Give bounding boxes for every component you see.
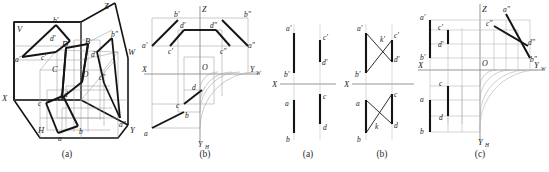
label-b-dprime: b" — [244, 10, 252, 19]
label-b: b — [185, 111, 189, 120]
panel-a-small-svg: a' b' c' d' a b c d X — [270, 0, 342, 150]
label-Z: Z — [202, 5, 207, 14]
panel-b-small-svg: a' b' c' d' k' a b c d k X — [344, 0, 420, 150]
heavy-line-segments — [294, 33, 320, 133]
label-c-prime: c' — [438, 23, 443, 32]
label-b-dprime: b" — [111, 30, 119, 39]
side-view-segments — [494, 14, 530, 58]
label-b-prime: b' — [420, 53, 426, 62]
label-d: d — [192, 83, 196, 92]
label-b: b — [420, 127, 424, 136]
label-d: d — [64, 90, 68, 99]
label-a-prime: a' — [357, 24, 363, 33]
label-c-dprime: c" — [486, 19, 493, 28]
label-c-prime: c' — [41, 53, 46, 62]
label-X: X — [141, 65, 148, 74]
label-d-prime: d' — [180, 21, 186, 30]
label-d-prime: d' — [322, 58, 328, 67]
caption-panel-3: (a) — [288, 149, 328, 159]
label-a-prime: a' — [420, 13, 426, 22]
label-b: b — [286, 135, 290, 144]
label-b-prime: b' — [284, 70, 290, 79]
label-a-dprime: a" — [119, 120, 127, 129]
label-W: W — [128, 47, 136, 57]
label-a: a — [420, 95, 424, 104]
label-a: a — [356, 99, 360, 108]
label-Yh-sub: H — [484, 142, 490, 148]
label-X: X — [271, 79, 278, 89]
label-Yh: Y — [478, 137, 484, 147]
label-c: c — [176, 101, 180, 110]
label-c-prime: c' — [394, 31, 399, 40]
label-a-prime: a' — [142, 41, 148, 50]
label-c: c — [323, 92, 327, 101]
label-a-dprime: a" — [503, 5, 511, 14]
panel-pictorial: Z V X Y W H O a' b' c' d' a b c d a" b" … — [0, 0, 142, 150]
label-H: H — [37, 125, 45, 135]
panel-c-small: Z X Y W Y H O a' b' c' d' a b c d a" b" … — [418, 0, 549, 150]
label-b-prime: b' — [53, 16, 59, 25]
label-a: a — [144, 129, 148, 138]
axes — [418, 4, 542, 140]
label-d-dprime: d" — [528, 38, 536, 47]
label-d-prime: d' — [438, 40, 444, 49]
label-k: k — [375, 122, 379, 131]
cross-lower-2 — [366, 94, 392, 133]
label-a: a — [58, 134, 62, 143]
label-c: c — [394, 90, 398, 99]
label-Z: Z — [482, 4, 487, 14]
top-view-segments — [430, 86, 448, 132]
label-O: O — [482, 59, 488, 68]
label-k-prime: k' — [380, 35, 385, 44]
panel-pictorial-svg: Z V X Y W H O a' b' c' d' a b c d a" b" … — [0, 0, 142, 150]
label-c-dprime: c" — [99, 73, 106, 82]
label-b-dprime: b" — [530, 55, 538, 64]
label-d-dprime: d" — [210, 21, 218, 30]
label-d: d — [439, 113, 443, 122]
label-c: c — [439, 79, 443, 88]
label-Yw-sub: W — [256, 70, 261, 76]
vertical-guides — [366, 24, 392, 140]
caption-panel-2: (b) — [185, 149, 225, 159]
panel-c-small-svg: Z X Y W Y H O a' b' c' d' a b c d a" b" … — [418, 0, 549, 150]
caption-panel-4: (b) — [362, 149, 402, 159]
label-c-prime: c' — [323, 33, 328, 42]
label-X: X — [344, 79, 350, 89]
label-point-B: B — [85, 36, 90, 46]
label-Z: Z — [104, 1, 109, 11]
transfer-arcs — [480, 70, 538, 132]
cross-upper-1 — [366, 33, 392, 62]
label-c-dprime: c" — [220, 47, 227, 56]
figure-plate: Z V X Y W H O a' b' c' d' a b c d a" b" … — [0, 0, 549, 172]
label-b: b — [357, 135, 361, 144]
label-a-dprime: a" — [248, 41, 256, 50]
label-d-dprime: d" — [91, 50, 99, 59]
panel-unfolded: Z X Y W Y H O a' b' c' d' a b c d a" b" … — [140, 0, 265, 150]
label-b-prime: b' — [174, 10, 180, 19]
label-a-prime: a' — [286, 24, 292, 33]
label-X: X — [1, 93, 8, 103]
transfer-arcs — [200, 72, 256, 128]
label-Y: Y — [130, 125, 136, 135]
panel-a-small: a' b' c' d' a b c d X — [270, 0, 342, 150]
caption-panel-5: (c) — [460, 149, 500, 159]
label-a: a — [285, 99, 289, 108]
label-b: b — [79, 127, 83, 136]
label-c-prime: c' — [168, 47, 173, 56]
segment-c-dprime-d-dprime — [494, 26, 528, 46]
panel-unfolded-svg: Z X Y W Y H O a' b' c' d' a b c d a" b" … — [140, 0, 265, 150]
vertical-guides — [294, 24, 320, 140]
label-Yh: Y — [198, 140, 204, 149]
label-d-prime: d' — [394, 55, 400, 64]
label-Yw-sub: W — [541, 66, 546, 72]
label-O: O — [202, 63, 208, 72]
caption-panel-1: (a) — [47, 149, 87, 159]
label-d: d — [323, 123, 327, 132]
label-d: d — [394, 121, 398, 130]
cross-lower-1 — [366, 100, 392, 124]
label-O: O — [83, 70, 89, 79]
label-point-C: C — [52, 64, 58, 74]
cross-upper-2 — [366, 40, 392, 73]
panel-c-small-labels: Z X Y W Y H O a' b' c' d' a b c d a" b" … — [418, 4, 546, 148]
label-point-D: D — [61, 39, 69, 49]
